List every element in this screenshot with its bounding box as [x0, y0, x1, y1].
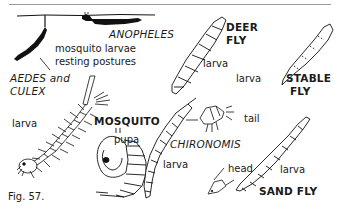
label-resting-line1: mosquito larvae — [55, 43, 136, 54]
label-deer-fly-line1: DEER — [226, 22, 258, 33]
label-mosquito: MOSQUITO — [94, 116, 160, 127]
label-sand-fly-larva: larva — [280, 164, 305, 175]
label-chironomis-larva: larva — [163, 159, 188, 170]
label-sand-fly: SAND FLY — [259, 186, 317, 197]
label-stable-fly-larva: larva — [236, 73, 261, 84]
label-deer-fly-larva: larva — [203, 58, 228, 69]
figure-caption: Fig. 57. — [8, 191, 44, 202]
chironomis-tail-detail — [186, 106, 234, 132]
anopheles-resting-larva — [82, 12, 142, 25]
label-anopheles: ANOPHELES — [109, 29, 174, 40]
aedes-culex-resting-larva — [14, 15, 47, 61]
sand-fly-larva — [236, 117, 310, 191]
label-chironomis: CHIRONOMIS — [170, 139, 241, 150]
deer-fly-larva — [172, 17, 226, 94]
label-pupa: pupa — [114, 134, 139, 145]
label-stable-fly-line1: STABLE — [286, 73, 331, 84]
label-aedes: AEDES and — [10, 73, 70, 84]
label-deer-fly-line2: FLY — [226, 35, 246, 46]
label-head: head — [228, 163, 253, 174]
label-tail: tail — [244, 113, 260, 124]
label-mosquito-larva: larva — [12, 118, 37, 129]
label-resting-line2: resting postures — [55, 56, 136, 67]
label-stable-fly-line2: FLY — [290, 86, 310, 97]
label-culex: CULEX — [10, 86, 46, 97]
pointer-line — [40, 58, 50, 70]
